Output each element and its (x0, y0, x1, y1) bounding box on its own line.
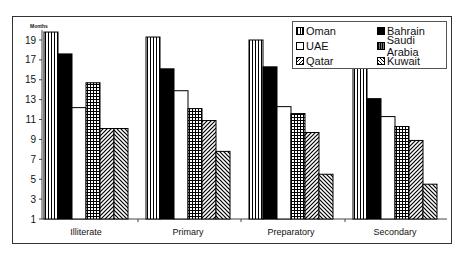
y-tick-label: 7 (30, 154, 36, 165)
y-tick-label: 15 (25, 74, 37, 85)
bar-qatar-preparatory (305, 132, 319, 219)
x-axis-labels: IlliteratePrimaryPreparatorySecondary (70, 227, 417, 237)
bar-saudi-arabia-preparatory (291, 114, 305, 219)
bar-kuwait-primary (216, 151, 230, 219)
y-tick-label: 5 (30, 174, 36, 185)
y-axis-unit-label: Months (30, 23, 48, 29)
x-category-label: Primary (173, 227, 204, 237)
y-tick-label: 3 (30, 194, 36, 205)
bar-saudi-arabia-primary (188, 109, 202, 219)
bar-uae-secondary (381, 117, 395, 219)
swatch-grid-icon (377, 42, 385, 50)
y-tick-label: 19 (25, 35, 37, 46)
legend-label: Oman (306, 25, 336, 37)
bar-kuwait-secondary (423, 184, 437, 219)
swatch-vertical-stripes-icon (296, 27, 304, 35)
bar-uae-primary (174, 91, 188, 219)
bar-oman-primary (146, 37, 160, 219)
legend-label: UAE (306, 40, 329, 52)
bar-saudi-arabia-secondary (395, 127, 409, 219)
bar-qatar-primary (202, 121, 216, 219)
legend-label: Qatar (306, 55, 334, 67)
bar-saudi-arabia-illiterate (86, 83, 100, 219)
bar-uae-illiterate (72, 108, 86, 219)
legend-item-oman: Oman (296, 24, 336, 38)
y-tick-label: 13 (25, 94, 37, 105)
swatch-white-icon (296, 42, 304, 50)
bar-oman-secondary (353, 65, 367, 219)
bar-qatar-illiterate (100, 129, 114, 219)
bar-bahrain-primary (160, 69, 174, 219)
legend: Oman Bahrain UAE Saudi Arabia Qatar Kuwa… (292, 21, 447, 69)
bar-bahrain-illiterate (58, 54, 72, 219)
bar-kuwait-illiterate (114, 129, 128, 219)
swatch-solid-icon (377, 27, 385, 35)
y-tick-label: 11 (26, 114, 37, 125)
legend-item-kuwait: Kuwait (377, 54, 420, 68)
swatch-diagonal-up-icon (296, 57, 304, 65)
legend-item-qatar: Qatar (296, 54, 334, 68)
swatch-diagonal-down-icon (377, 57, 385, 65)
bar-kuwait-preparatory (319, 174, 333, 219)
bar-uae-preparatory (277, 107, 291, 219)
bar-bahrain-preparatory (263, 67, 277, 219)
y-tick-label: 17 (25, 54, 37, 65)
bar-oman-preparatory (249, 40, 263, 219)
x-category-label: Secondary (373, 227, 417, 237)
x-category-label: Preparatory (267, 227, 315, 237)
legend-label: Kuwait (387, 55, 420, 67)
legend-item-saudi-arabia: Saudi Arabia (377, 39, 446, 53)
y-tick-label: 9 (30, 134, 36, 145)
bar-bahrain-secondary (367, 99, 381, 219)
y-tick-label: 1 (30, 214, 36, 225)
x-category-label: Illiterate (70, 227, 102, 237)
bar-qatar-secondary (409, 140, 423, 219)
bar-oman-illiterate (44, 32, 58, 219)
legend-item-uae: UAE (296, 39, 329, 53)
